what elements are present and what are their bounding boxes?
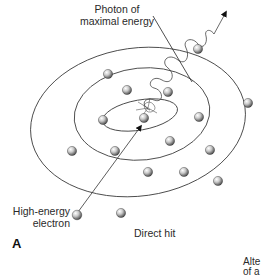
electron: [98, 115, 107, 124]
electron: [103, 69, 112, 78]
electron: [67, 146, 76, 155]
photon-label-line1: Photon of: [77, 3, 157, 15]
electron: [122, 85, 131, 94]
electron: [213, 176, 222, 185]
electron: [163, 87, 172, 96]
electron: [194, 112, 203, 121]
electron-path-arrow: [78, 126, 141, 212]
high-energy-electron: [72, 210, 82, 220]
cropped-text-line2: of a: [243, 267, 260, 277]
caption-direct-hit: Direct hit: [134, 227, 175, 239]
electron-label: High-energy electron: [8, 205, 70, 229]
nucleus-icon: [136, 98, 157, 116]
electron: [110, 146, 119, 155]
electron: [139, 113, 148, 122]
inner-shell: [100, 94, 180, 137]
photon-label-line2: maximal energy: [77, 15, 157, 27]
electron: [193, 44, 202, 53]
electron-label-line1: High-energy: [8, 205, 70, 217]
panel-label: A: [12, 238, 21, 250]
electron: [116, 208, 125, 217]
electron: [243, 98, 252, 107]
electron: [165, 136, 174, 145]
electron: [143, 167, 152, 176]
electron: [179, 167, 188, 176]
electron: [205, 145, 214, 154]
cropped-text: Alte of a: [243, 257, 260, 277]
electron-label-line2: electron: [8, 217, 70, 229]
photon-label: Photon of maximal energy: [77, 3, 157, 27]
